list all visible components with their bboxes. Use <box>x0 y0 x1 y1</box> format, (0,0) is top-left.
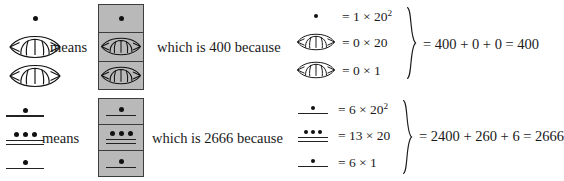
boxed-place-2 <box>99 151 143 176</box>
bar-glyph <box>6 168 44 170</box>
shell-zero-icon <box>100 66 142 85</box>
equation-line-1: = 13 × 20 <box>338 129 390 143</box>
dotbar-glyph <box>106 159 136 168</box>
dot-group <box>119 159 124 164</box>
dot-glyph <box>304 130 308 134</box>
equation-text: = 6 × 1 <box>338 155 377 170</box>
means-label: means <box>50 40 87 55</box>
value-statement: which is 400 because <box>157 40 281 55</box>
dot-group <box>110 131 133 136</box>
grouping-brace <box>405 6 419 80</box>
bar-group <box>106 139 136 145</box>
bar-glyph <box>6 144 44 146</box>
dot-glyph <box>23 132 28 137</box>
dotbar-glyph <box>106 107 136 116</box>
bar-glyph <box>6 140 44 142</box>
equation-text: = 6 × 20 <box>338 102 384 117</box>
numeral-place-2 <box>0 152 58 177</box>
bar-glyph <box>106 139 136 141</box>
bar-group <box>106 167 136 169</box>
dotbar-glyph <box>298 130 328 142</box>
equation-exponent: 2 <box>388 8 393 18</box>
equation-glyph-0 <box>293 99 333 121</box>
equation-line-1: = 0 × 20 <box>342 36 388 50</box>
boxed-place-2 <box>99 62 143 89</box>
dotbar-glyph <box>6 132 44 145</box>
mayan-numeral-2666-boxed <box>98 98 144 177</box>
equation-text: = 13 × 20 <box>338 128 390 143</box>
mayan-numeral-400-boxed <box>98 4 144 90</box>
dot-group <box>304 130 322 134</box>
dot-glyph <box>314 14 318 18</box>
grouping-brace <box>401 99 415 175</box>
result-sum: = 2400 + 260 + 6 = 2666 <box>419 129 564 144</box>
boxed-place-0 <box>99 99 143 125</box>
boxed-place-1 <box>99 33 143 61</box>
equation-glyph-1 <box>296 32 336 52</box>
equation-text: = 0 × 20 <box>342 35 388 50</box>
bar-glyph <box>106 167 136 169</box>
equation-text: = 1 × 20 <box>342 9 388 24</box>
equation-glyph-2 <box>296 60 336 80</box>
numeral-place-2 <box>4 61 66 90</box>
bar-glyph <box>106 115 136 117</box>
equation-line-2: = 0 × 1 <box>342 64 381 78</box>
dot-glyph <box>23 160 28 165</box>
dot-glyph <box>33 16 38 21</box>
dot-glyph <box>311 130 315 134</box>
dot-glyph <box>110 131 115 136</box>
bar-group <box>298 166 328 168</box>
dot-group <box>119 107 124 112</box>
shell-zero-icon <box>296 33 336 51</box>
bar-glyph <box>298 113 328 115</box>
dot-glyph <box>119 16 124 21</box>
dotbar-glyph <box>298 159 328 167</box>
bar-group <box>298 137 328 143</box>
bar-group <box>106 115 136 117</box>
dot-glyph <box>14 132 19 137</box>
bar-group <box>6 115 44 117</box>
numeral-place-0 <box>4 4 66 32</box>
boxed-place-0 <box>99 5 143 33</box>
dot-group <box>23 108 28 113</box>
equation-text: = 0 × 1 <box>342 63 381 78</box>
boxed-place-1 <box>99 125 143 151</box>
dotbar-glyph <box>298 106 328 114</box>
equation-line-2: = 6 × 1 <box>338 156 377 170</box>
dotbar-glyph <box>6 108 44 117</box>
means-label: means <box>42 131 79 146</box>
bar-glyph <box>298 137 328 139</box>
bar-glyph <box>298 166 328 168</box>
dotbar-glyph <box>6 160 44 169</box>
shell-zero-icon <box>100 37 142 56</box>
dot-glyph <box>128 131 133 136</box>
bar-glyph <box>106 143 136 145</box>
numeral-place-0 <box>0 99 58 125</box>
bar-group <box>298 113 328 115</box>
bar-glyph <box>298 141 328 143</box>
equation-glyph-0 <box>296 6 336 26</box>
shell-zero-icon <box>8 64 62 88</box>
bar-group <box>6 168 44 170</box>
shell-zero-icon <box>296 61 336 79</box>
dot-group <box>311 159 315 163</box>
bar-group <box>6 140 44 146</box>
dotbar-glyph <box>106 131 136 144</box>
dot-glyph <box>32 132 37 137</box>
dot-glyph <box>311 159 315 163</box>
bar-glyph <box>6 115 44 117</box>
equation-line-0: = 1 × 202 <box>342 10 392 24</box>
result-sum: = 400 + 0 + 0 = 400 <box>423 37 539 52</box>
value-statement: which is 2666 because <box>152 131 283 146</box>
dot-glyph <box>119 107 124 112</box>
dot-glyph <box>311 106 315 110</box>
equation-exponent: 2 <box>384 101 389 111</box>
explanation-row-400: means <box>0 0 555 95</box>
equation-glyph-2 <box>293 152 333 174</box>
equation-line-0: = 6 × 202 <box>338 103 388 117</box>
equation-glyph-1 <box>293 124 333 148</box>
explanation-row-2666: means <box>0 95 555 181</box>
dot-group <box>23 160 28 165</box>
dot-glyph <box>318 130 322 134</box>
dot-glyph <box>23 108 28 113</box>
